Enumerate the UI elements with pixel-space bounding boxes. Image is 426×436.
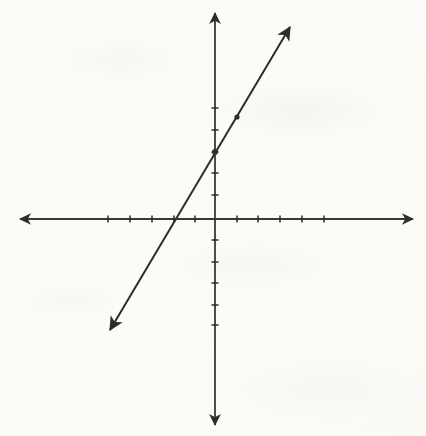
graph-canvas (0, 0, 426, 436)
plotted-line (110, 27, 290, 330)
x-axis (20, 216, 413, 223)
coordinate-plane-line-graph (0, 0, 426, 436)
plotted-line-group (110, 27, 290, 330)
second-point (234, 114, 239, 119)
y-intercept-point (212, 149, 218, 155)
